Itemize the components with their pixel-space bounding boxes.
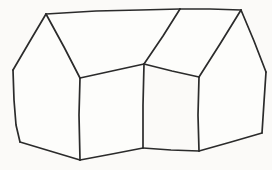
left-front-corner-vertical [79, 78, 80, 160]
left-front-wall [80, 64, 144, 160]
sketch-canvas [0, 0, 272, 170]
right-front-corner-vertical [198, 77, 199, 151]
right-ridge-top [180, 9, 241, 10]
house-sketch-svg [0, 0, 272, 170]
valley-corner-vertical [143, 64, 144, 148]
